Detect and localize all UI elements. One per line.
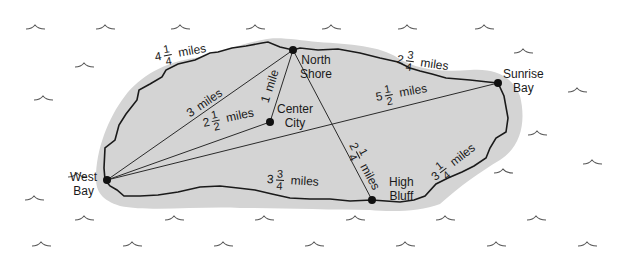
label-high-bluff: High Bluff: [389, 175, 414, 203]
high-bluff-marker-icon: [368, 196, 376, 204]
label-sunrise-bay: Sunrise Bay: [503, 67, 544, 95]
label-center-city: Center City: [277, 102, 313, 130]
west-bay-marker-icon: [103, 176, 111, 184]
label-north-shore: North Shore: [300, 53, 332, 81]
label-west-bay: West Bay: [70, 170, 97, 198]
sunrise-bay-marker-icon: [494, 79, 502, 87]
center-city-marker-icon: [266, 118, 274, 126]
distance-west-bay-high-bluff-coast: 3 34 miles: [266, 168, 319, 194]
north-shore-marker-icon: [289, 46, 297, 54]
